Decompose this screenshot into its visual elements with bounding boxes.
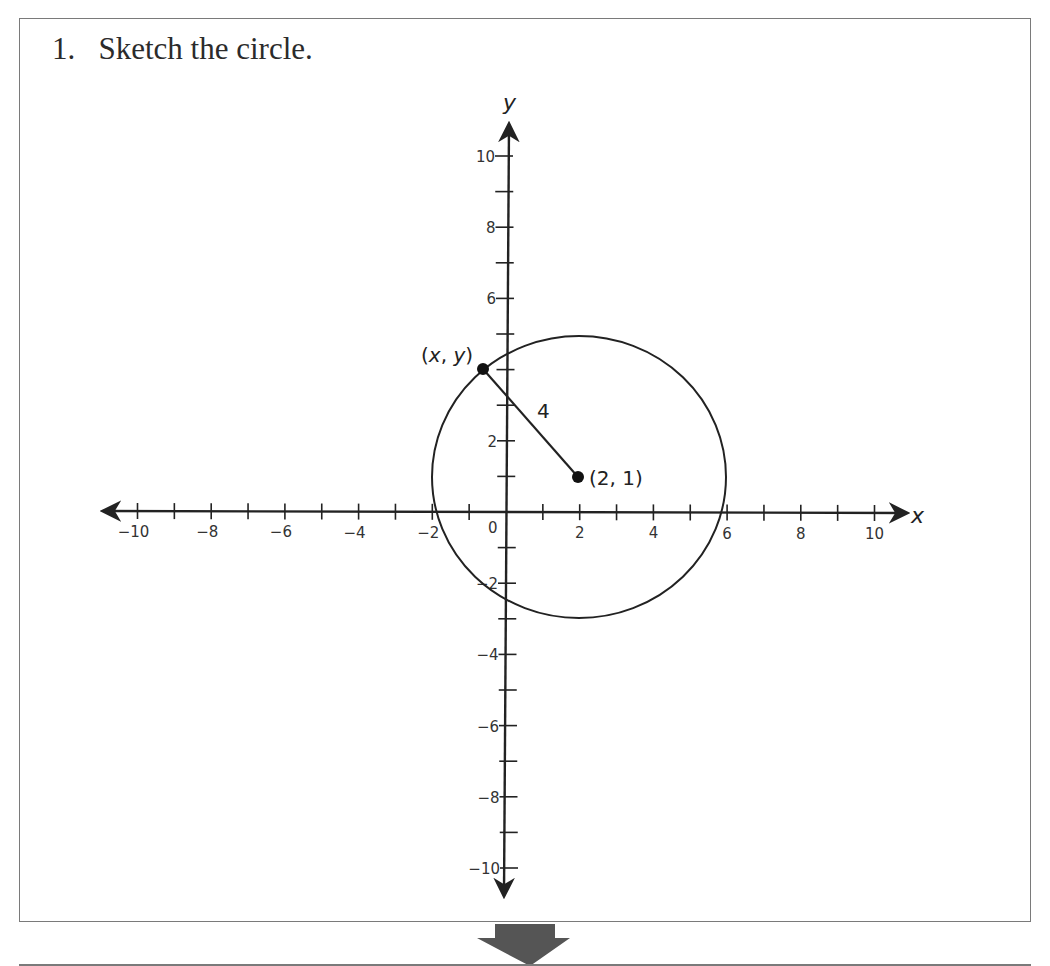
origin-label: 0 — [488, 519, 498, 537]
x-tick-labels: −10−8−6−4−2246810 — [118, 523, 884, 543]
y-tick-label: 8 — [486, 219, 496, 237]
radius-label: 4 — [537, 399, 550, 423]
y-tick-label: −8 — [477, 789, 499, 807]
center-point — [572, 471, 584, 483]
y-tick-label: 6 — [486, 290, 496, 308]
x-tick-label: −6 — [270, 523, 292, 541]
x-tick-label: 6 — [722, 525, 732, 543]
x-tick-label: 8 — [796, 525, 806, 543]
radius-segment — [483, 369, 578, 477]
x-tick-label: 10 — [865, 525, 884, 543]
y-axis — [504, 125, 509, 895]
center-label: (2, 1) — [589, 466, 643, 490]
x-tick-label: −8 — [196, 523, 218, 541]
y-tick-label: −4 — [476, 646, 498, 664]
y-axis-label: y — [502, 90, 517, 115]
y-tick-label: 2 — [487, 433, 497, 451]
y-tick-label: 10 — [476, 148, 495, 166]
x-tick-label: −4 — [344, 524, 366, 542]
x-tick-label: 2 — [575, 524, 585, 542]
point-label: (x, y) — [421, 343, 473, 367]
circle-point — [477, 363, 489, 375]
x-tick-label: −10 — [118, 523, 150, 541]
x-axis — [104, 511, 906, 513]
y-tick-label: −2 — [476, 575, 498, 593]
x-axis-label: x — [910, 503, 925, 528]
y-tick-label: −10 — [468, 860, 500, 878]
y-tick-label: −6 — [477, 718, 499, 736]
x-tick-label: −2 — [417, 524, 439, 542]
down-arrow-icon — [477, 924, 570, 966]
coordinate-plane: −10−8−6−4−2246810 10862−2−4−6−8−10 x y 0… — [0, 0, 1050, 966]
x-tick-label: 4 — [649, 524, 659, 542]
